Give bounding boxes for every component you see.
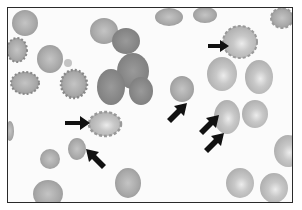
- arrow-icon: [199, 115, 219, 135]
- arrow-icon: [86, 149, 106, 169]
- arrow-icon: [204, 133, 224, 153]
- micrograph-image: [8, 8, 292, 202]
- arrows: [65, 40, 229, 169]
- red-blood-cells: [8, 8, 292, 202]
- arrow-icon: [65, 116, 90, 130]
- micrograph-frame: [7, 7, 293, 203]
- arrow-icon: [167, 103, 187, 123]
